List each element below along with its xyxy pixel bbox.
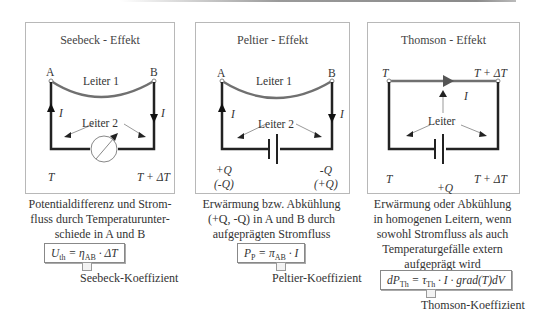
seebeck-formula: Uth = ηAB · ΔT bbox=[44, 243, 125, 263]
heat-label: +Q bbox=[437, 182, 453, 194]
temp-right-label: T + ΔT bbox=[474, 173, 507, 185]
temp-left-label: T bbox=[48, 171, 54, 183]
current-left-label: I bbox=[59, 107, 63, 119]
top-divider bbox=[120, 0, 516, 2]
leiter-2-label: Leiter 2 bbox=[258, 118, 294, 130]
node-b-label: B bbox=[150, 66, 158, 78]
peltier-formula: PP = πAB · I bbox=[237, 243, 305, 263]
peltier-panel: Peltier - Effekt A B Leiter 1 I I Leiter… bbox=[195, 22, 350, 194]
seebeck-panel: Seebeck - Effekt A B Leiter 1 I I Leiter… bbox=[25, 22, 175, 194]
thomson-panel: Thomson - Effekt T T + ΔT I Leiter T T +… bbox=[367, 22, 520, 194]
peltier-coef-marker bbox=[276, 262, 286, 271]
current-left-label: I bbox=[231, 108, 235, 120]
seebeck-circuit-diagram bbox=[26, 23, 174, 193]
temp-top-right-label: T + ΔT bbox=[474, 67, 507, 79]
current-label: I bbox=[464, 90, 468, 102]
current-right-label: I bbox=[161, 107, 165, 119]
node-b-label: B bbox=[328, 67, 336, 79]
leiter-2-label: Leiter 2 bbox=[82, 117, 118, 129]
temp-right-label: T + ΔT bbox=[137, 171, 170, 183]
thomson-coefficient-label: Thomson-Koeffizient bbox=[421, 298, 525, 313]
leiter-label: Leiter bbox=[428, 115, 455, 127]
thomson-coef-marker bbox=[426, 289, 436, 298]
thomson-formula: dPTh = τTh · I · grad(T)dV bbox=[380, 270, 512, 290]
leiter-1-label: Leiter 1 bbox=[83, 75, 119, 87]
peltier-coefficient-label: Peltier-Koeffizient bbox=[272, 271, 362, 286]
node-a-label: A bbox=[46, 66, 54, 78]
seebeck-coef-marker bbox=[82, 262, 92, 271]
temp-top-left-label: T bbox=[382, 67, 388, 79]
heat-left-label: +Q(-Q) bbox=[214, 163, 234, 191]
leiter-1-label: Leiter 1 bbox=[256, 75, 292, 87]
peltier-description: Erwärmung bzw. Abkühlung (+Q, -Q) in A u… bbox=[190, 197, 353, 242]
seebeck-description: Potentialdifferenz und Strom- fluss durc… bbox=[20, 197, 180, 242]
seebeck-coefficient-label: Seebeck-Koeffizient bbox=[80, 271, 178, 286]
thomson-description: Erwärmung oder Abkühlung in homogenen Le… bbox=[362, 197, 523, 272]
thomson-circuit-diagram bbox=[368, 23, 519, 193]
temp-left-label: T bbox=[386, 173, 392, 185]
heat-right-label: -Q(+Q) bbox=[314, 163, 338, 191]
node-a-label: A bbox=[217, 67, 225, 79]
current-right-label: I bbox=[340, 108, 344, 120]
